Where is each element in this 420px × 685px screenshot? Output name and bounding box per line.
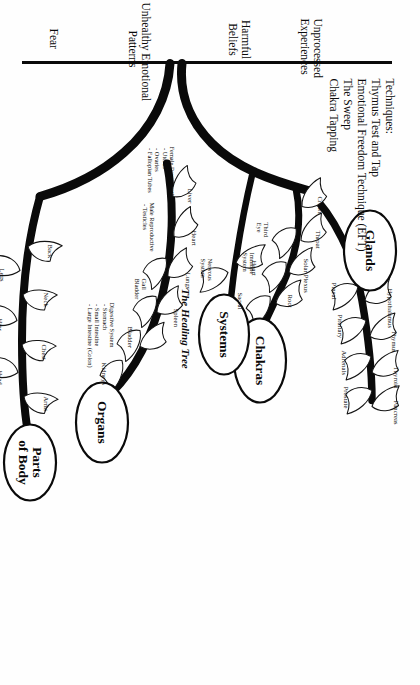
leaf-label-adrenals: Adrenals — [341, 350, 348, 375]
leaf-label-immune-system: Immune System — [241, 252, 256, 274]
page-title: The Healing Tree — [180, 288, 192, 368]
leaf-label-thymus: Thymus — [391, 330, 398, 352]
leaf-label-pancreas: Pancreas — [393, 400, 400, 424]
root-label-unprocessed-1: Experiences — [298, 18, 311, 60]
leaf-label-pituitary: Pituitary — [337, 314, 344, 338]
leaf-label-back: Back — [47, 244, 54, 258]
techniques-line-4: Chakra Tapping — [327, 78, 340, 151]
leaf-label-liver: Liver — [187, 188, 194, 203]
techniques-line-0: Techniques: — [383, 78, 396, 133]
leaf-label-hips: Hips — [0, 318, 4, 331]
leaf-label-solar-plexus: Solar Plexus — [303, 258, 310, 292]
leaf-label-head: Head — [0, 370, 4, 384]
leaf-label-prostate: Prostate — [343, 386, 350, 408]
leaf-label-male-reproductive: Male Reproductive - Testicles — [141, 202, 156, 251]
leaf-label-gall-bladder: Gall Bladder — [133, 278, 148, 299]
leaf-label-spleen: Spleen — [173, 308, 180, 327]
diagram-canvas: The Healing Tree Techniques: Thymus Test… — [0, 0, 420, 685]
leaf-label-neck: Neck — [43, 292, 50, 306]
root-label-unprocessed-0: Unprocessed — [311, 18, 324, 60]
leaf-label-lungs: Lungs — [185, 272, 192, 289]
leaf-label-crown: Crown — [317, 196, 324, 214]
leaf-label-throat: Throat — [315, 230, 322, 248]
root-label-fear: Fear — [47, 28, 60, 48]
leaf-label-pineal: Pineal — [331, 282, 338, 299]
leaf-label-digestive-system: Digestive System - Stomach - Small Intes… — [86, 302, 116, 367]
leaf-label-female-reproductive: Female Reproductive - Uterus - Ovaries -… — [146, 146, 176, 201]
bubble-label-parts-of-body-line2[interactable]: of Body — [17, 432, 30, 492]
bubble-label-parts-of-body-line1[interactable]: Parts — [31, 432, 44, 492]
root-label-harmful-1: Beliefs — [226, 18, 239, 60]
leaf-label-nervous-system: Nervous System — [199, 258, 214, 280]
bubble-label-chakras[interactable]: Chakras — [254, 326, 267, 394]
root-sweep-top — [181, 63, 308, 190]
root-label-unhealthy-0: Unhealthy Emotional — [139, 2, 152, 101]
techniques-line-1: Thymus Test and Tap — [369, 78, 382, 177]
leaf-label-arms: Arms — [43, 396, 50, 411]
leaf-label-third-eye: Third Eye — [255, 222, 270, 237]
poster-root: The Healing Tree Techniques: Thymus Test… — [0, 0, 420, 685]
leaf-label-legs: Legs — [0, 268, 6, 281]
leaf-label-thyroid: Thyroid — [393, 366, 400, 388]
branch-systems — [230, 175, 252, 306]
leaf-label-root: Root — [287, 294, 294, 307]
bubble-label-glands[interactable]: Glands — [364, 220, 377, 280]
leaf-label-chest: Chest — [41, 344, 48, 360]
techniques-line-3: The Sweep — [341, 78, 354, 129]
root-label-harmful-0: Harmful — [239, 18, 252, 60]
leaf-label-heart-organ: Heart — [191, 230, 198, 245]
leaf-label-bladder: Bladder — [127, 326, 134, 348]
bubble-label-organs[interactable]: Organs — [96, 390, 109, 454]
bubble-label-systems[interactable]: Systems — [218, 300, 231, 368]
root-label-unhealthy-1: Patterns — [126, 30, 139, 67]
leaf-label-sacral: Sacral — [237, 292, 244, 309]
leaf-label-hypothalamus: Hypothalamus — [387, 288, 394, 328]
